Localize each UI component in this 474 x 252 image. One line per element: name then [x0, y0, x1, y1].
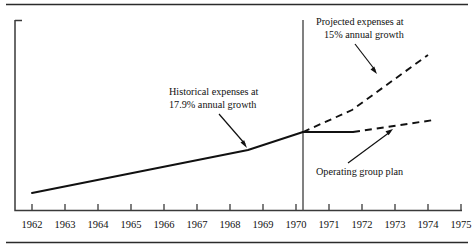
annotation-historical-arrowhead: [241, 140, 248, 148]
tick-label-1962: 1962: [22, 219, 43, 230]
annotation-operating-line-1: Operating group plan: [316, 166, 403, 177]
tick-label-1965: 1965: [121, 219, 142, 230]
series-historical-expenses: [32, 132, 303, 193]
tick-label-1966: 1966: [154, 219, 175, 230]
tick-label-1970: 1970: [286, 219, 307, 230]
tick-label-1975: 1975: [451, 219, 472, 230]
tick-label-1974: 1974: [418, 219, 440, 230]
annotation-historical-line-1: Historical expenses at: [169, 86, 259, 97]
series-operating-group-plan-dashed: [353, 120, 434, 132]
chart-axes: [15, 20, 462, 211]
annotation-historical: Historical expenses at 17.9% annual grow…: [169, 86, 259, 148]
tick-label-1968: 1968: [220, 219, 241, 230]
x-axis-ticks: [32, 204, 461, 211]
tick-label-1971: 1971: [319, 219, 340, 230]
expenses-projection-chart: 1962 1963 1964 1965 1966 1967 1968 1969 …: [0, 0, 474, 252]
annotation-historical-line-2: 17.9% annual growth: [169, 99, 256, 110]
annotation-operating: Operating group plan: [316, 129, 403, 177]
tick-label-1964: 1964: [88, 219, 110, 230]
annotation-operating-leader: [348, 132, 390, 163]
annotation-historical-leader: [219, 114, 245, 144]
tick-label-1972: 1972: [352, 219, 373, 230]
annotation-projected-leader: [355, 44, 375, 70]
tick-label-1973: 1973: [385, 219, 406, 230]
tick-label-1967: 1967: [187, 219, 208, 230]
tick-label-1969: 1969: [253, 219, 274, 230]
series-projected-expenses: [303, 55, 428, 132]
x-axis-tick-labels: 1962 1963 1964 1965 1966 1967 1968 1969 …: [22, 219, 472, 230]
annotation-projected-arrowhead: [371, 67, 378, 74]
chart-figure: 1962 1963 1964 1965 1966 1967 1968 1969 …: [0, 0, 474, 252]
annotation-projected: Projected expenses at 15% annual growth: [316, 16, 404, 74]
annotation-projected-line-2: 15% annual growth: [324, 29, 404, 40]
tick-label-1963: 1963: [55, 219, 76, 230]
annotation-projected-line-1: Projected expenses at: [316, 16, 404, 27]
